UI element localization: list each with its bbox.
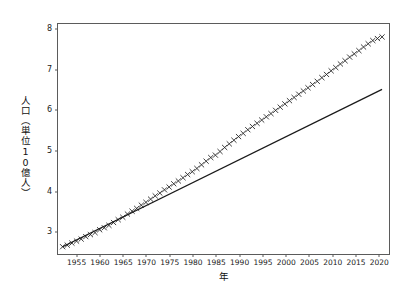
y-axis-tick-mark [55, 69, 58, 70]
plot-canvas [58, 24, 389, 254]
trend-line-series [63, 89, 382, 246]
x-axis-tick-mark [169, 254, 170, 257]
scatter-marker-x-icon [213, 153, 218, 158]
x-axis-tick-mark [356, 254, 357, 257]
x-axis-tick-mark [146, 254, 147, 257]
scatter-marker-x-icon [162, 187, 167, 192]
scatter-marker-x-icon [315, 79, 320, 84]
scatter-marker-x-icon [379, 34, 384, 39]
scatter-marker-x-icon [241, 131, 246, 136]
scatter-marker-x-icon [375, 36, 380, 41]
scatter-marker-x-icon [273, 108, 278, 113]
x-axis-tick-mark [99, 254, 100, 257]
scatter-marker-x-icon [292, 95, 297, 100]
scatter-marker-x-icon [282, 101, 287, 106]
scatter-marker-x-icon [176, 178, 181, 183]
scatter-marker-x-icon [268, 111, 273, 116]
scatter-marker-x-icon [222, 145, 227, 150]
scatter-marker-x-icon [310, 82, 315, 87]
x-axis-tick-mark [262, 254, 263, 257]
y-axis-tick-mark [55, 110, 58, 111]
scatter-marker-x-icon [366, 41, 371, 46]
scatter-marker-x-icon [254, 121, 259, 126]
scatter-marker-x-icon [153, 193, 158, 198]
population-scatter-series [60, 34, 385, 249]
x-axis-tick-mark [332, 254, 333, 257]
scatter-marker-x-icon [324, 72, 329, 77]
plot-frame: 3456781955196019651970197519801985199019… [57, 23, 390, 255]
scatter-marker-x-icon [199, 162, 204, 167]
scatter-marker-x-icon [190, 169, 195, 174]
scatter-marker-x-icon [250, 124, 255, 129]
scatter-marker-x-icon [171, 181, 176, 186]
scatter-marker-x-icon [356, 48, 361, 53]
scatter-marker-x-icon [227, 141, 232, 146]
scatter-marker-x-icon [342, 58, 347, 63]
scatter-marker-x-icon [148, 197, 153, 202]
scatter-marker-x-icon [157, 190, 162, 195]
scatter-marker-x-icon [236, 134, 241, 139]
y-axis-tick-mark [55, 150, 58, 151]
scatter-marker-x-icon [259, 117, 264, 122]
y-axis-tick-mark [55, 28, 58, 29]
scatter-marker-x-icon [347, 55, 352, 60]
scatter-marker-x-icon [301, 88, 306, 93]
x-axis-tick-mark [309, 254, 310, 257]
y-axis-tick-mark [55, 191, 58, 192]
plot-area [58, 24, 389, 254]
scatter-marker-x-icon [338, 61, 343, 66]
scatter-marker-x-icon [204, 159, 209, 164]
scatter-marker-x-icon [287, 98, 292, 103]
scatter-marker-x-icon [231, 138, 236, 143]
x-axis-tick-mark [239, 254, 240, 257]
scatter-marker-x-icon [296, 92, 301, 97]
scatter-marker-x-icon [264, 114, 269, 119]
x-axis-tick-mark [286, 254, 287, 257]
y-axis-tick-mark [55, 232, 58, 233]
x-axis-tick-mark [216, 254, 217, 257]
scatter-marker-x-icon [278, 105, 283, 110]
population-chart-figure: 人口（単位10億人） 34567819551960196519701975198… [0, 0, 418, 293]
scatter-marker-x-icon [333, 65, 338, 70]
scatter-marker-x-icon [185, 172, 190, 177]
scatter-marker-x-icon [245, 127, 250, 132]
scatter-marker-x-icon [208, 155, 213, 160]
scatter-marker-x-icon [319, 75, 324, 80]
scatter-marker-x-icon [361, 44, 366, 49]
x-axis-title: 年 [57, 272, 390, 282]
x-axis-tick-mark [76, 254, 77, 257]
x-axis-tick-mark [379, 254, 380, 257]
scatter-marker-x-icon [167, 184, 172, 189]
x-axis-tick-mark [123, 254, 124, 257]
x-axis-tick-mark [193, 254, 194, 257]
y-axis-title: 人口（単位10億人） [14, 96, 30, 198]
scatter-marker-x-icon [370, 38, 375, 43]
scatter-marker-x-icon [180, 175, 185, 180]
scatter-marker-x-icon [305, 85, 310, 90]
scatter-marker-x-icon [352, 51, 357, 56]
scatter-marker-x-icon [60, 244, 65, 249]
scatter-marker-x-icon [194, 166, 199, 171]
scatter-marker-x-icon [329, 68, 334, 73]
